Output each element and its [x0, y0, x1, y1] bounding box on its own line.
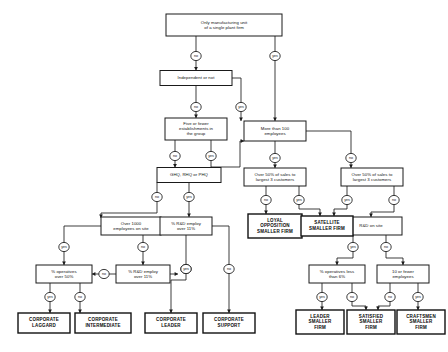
decision-node: % R&D employover 11%: [116, 265, 170, 283]
edge-label-text: no: [194, 105, 198, 109]
edge-arrowhead: [369, 214, 373, 217]
svg-text:LAGGARD: LAGGARD: [32, 323, 56, 328]
svg-text:FIRM: FIRM: [314, 325, 326, 330]
svg-text:SATELLITE: SATELLITE: [314, 220, 340, 225]
svg-text:CORPORATE: CORPORATE: [29, 317, 59, 322]
edge-label-text: yes: [350, 245, 356, 249]
edge-arrowhead: [141, 262, 145, 265]
edge-label-yes: yes: [348, 242, 358, 251]
edge-label-yes: yes: [181, 264, 191, 273]
terminal-node: CRAFTSMENSMALLERFIRM: [397, 310, 445, 334]
edge-yes: [211, 139, 244, 167]
edge-label-no: no: [170, 151, 180, 160]
svg-text:FIRM: FIRM: [415, 325, 427, 330]
edge-label-text: no: [392, 198, 396, 202]
edge-no: [99, 183, 157, 219]
svg-text:CORPORATE: CORPORATE: [88, 317, 118, 322]
terminal-node: CORPORATEINTERMEDIATE: [75, 313, 131, 333]
edge-arrowhead: [92, 272, 95, 276]
decision-node: Only manufacturing unitof a single plant…: [166, 14, 282, 36]
svg-text:SMALLER FIRM: SMALLER FIRM: [257, 229, 293, 234]
edge-path: [64, 226, 101, 265]
edge-label-yes: yes: [294, 195, 304, 204]
edge-arrowhead: [401, 262, 405, 265]
edge-label-text: no: [349, 156, 353, 160]
decision-node: More than 100employees: [244, 121, 306, 141]
terminal-node: LEADERSMALLERFIRM: [296, 310, 344, 334]
edge-no: [306, 131, 353, 168]
edge-label-yes: yes: [236, 102, 246, 111]
svg-text:over 11%: over 11%: [134, 274, 152, 279]
edge-label-text: no: [388, 295, 392, 299]
decision-node: Five or fewerestablishments inthe group: [165, 118, 227, 140]
edge-label-text: yes: [183, 267, 189, 271]
edge-label-yes: yes: [45, 292, 55, 301]
edge-arrowhead: [187, 214, 191, 217]
edge-label-yes: yes: [184, 192, 194, 201]
edge-path: [211, 140, 244, 167]
edge-label-yes: yes: [206, 151, 216, 160]
svg-text:largest 3 customers: largest 3 customers: [256, 177, 294, 182]
edge-label-yes: yes: [342, 195, 352, 204]
edge-label-text: yes: [47, 295, 53, 299]
svg-text:LOYAL: LOYAL: [267, 218, 283, 223]
svg-text:LEADER: LEADER: [161, 323, 181, 328]
decision-node: Over 50% of sales tolargest 3 customers: [244, 168, 306, 186]
edge-label-no: no: [138, 242, 148, 251]
edge-arrowhead: [335, 262, 339, 265]
svg-text:FIRM: FIRM: [365, 325, 377, 330]
decision-node: % operatives lessthan 6%: [309, 265, 365, 283]
edge-yes: [170, 272, 178, 276]
edge-arrowhead: [175, 272, 178, 276]
edge-label-text: yes: [415, 295, 421, 299]
edge-arrowhead: [173, 164, 177, 167]
edge-path: [232, 78, 241, 121]
svg-text:CRAFTSMEN: CRAFTSMEN: [406, 314, 436, 319]
svg-text:than 6%: than 6%: [329, 274, 345, 279]
edge-label-text: yes: [296, 198, 302, 202]
terminal-node: SATISFIEDSMALLERFIRM: [347, 310, 395, 334]
edge-label-no: no: [385, 292, 395, 301]
edge-yes: [273, 36, 277, 121]
svg-text:CORPORATE: CORPORATE: [214, 317, 244, 322]
terminal-node: CORPORATELEADER: [145, 313, 197, 333]
terminal-node: LOYALOPPOSITIONSMALLER FIRM: [248, 214, 302, 238]
svg-text:Independent or not: Independent or not: [178, 75, 216, 80]
edge-label-text: no: [173, 154, 177, 158]
edge-label-yes: yes: [413, 292, 423, 301]
edge-arrowhead: [62, 262, 66, 265]
edge-label-text: yes: [186, 195, 192, 199]
svg-text:SMALLER: SMALLER: [360, 319, 383, 324]
edge-label-text: no: [350, 295, 354, 299]
decision-node: Over 50% of sales tolargest 3 customers: [341, 168, 403, 186]
edge-label-text: yes: [238, 105, 244, 109]
nodes-layer: Only manufacturing unitof a single plant…: [18, 14, 445, 334]
edge-label-text: yes: [344, 198, 350, 202]
svg-text:CORPORATE: CORPORATE: [156, 317, 186, 322]
svg-text:of a single plant firm: of a single plant firm: [204, 25, 244, 30]
edge-yes: [232, 78, 243, 121]
edge-path: [101, 183, 157, 219]
flowchart-page: Only manufacturing unitof a single plant…: [0, 0, 448, 352]
svg-text:employees: employees: [264, 131, 285, 136]
edge-label-text: no: [194, 54, 198, 58]
decision-node: % operativesover 50%: [36, 265, 92, 283]
edge-label-no: no: [261, 195, 271, 204]
edge-label-text: yes: [319, 295, 325, 299]
svg-text:SMALLER: SMALLER: [410, 319, 433, 324]
svg-text:SMALLER: SMALLER: [309, 319, 332, 324]
edge-label-text: no: [384, 245, 388, 249]
edge-label-text: no: [141, 245, 145, 249]
edge-label-text: no: [155, 195, 159, 199]
edge-label-text: yes: [61, 245, 67, 249]
edge-label-no: no: [347, 292, 357, 301]
svg-text:LEADER: LEADER: [310, 314, 330, 319]
svg-text:largest 3 customers: largest 3 customers: [353, 177, 391, 182]
svg-text:R&D on site: R&D on site: [359, 223, 383, 228]
edge-label-text: yes: [272, 54, 278, 58]
decision-node: % R&D employover 11%: [160, 217, 212, 235]
terminal-node: CORPORATELAGGARD: [18, 313, 70, 333]
decision-node: 10 or feweremployees: [377, 265, 429, 283]
svg-text:over 11%: over 11%: [177, 226, 195, 231]
edge-arrowhead: [194, 67, 198, 70]
